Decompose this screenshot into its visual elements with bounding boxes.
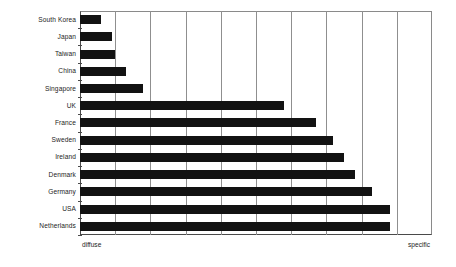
bar	[80, 222, 390, 231]
axis-tick	[78, 114, 82, 115]
bar	[80, 170, 355, 179]
axis-tick	[78, 201, 82, 202]
bar	[80, 15, 101, 24]
axis-tick	[78, 63, 82, 64]
axis-tick	[78, 166, 82, 167]
axis-tick	[78, 235, 82, 236]
bar	[80, 136, 333, 145]
category-label: South Korea	[2, 16, 76, 24]
category-label: Singapore	[2, 85, 76, 93]
category-label: Ireland	[2, 153, 76, 161]
x-axis-left-label: diffuse	[82, 241, 101, 249]
bar	[80, 67, 126, 76]
bar	[80, 50, 115, 59]
bar	[80, 101, 284, 110]
axis-tick	[78, 183, 82, 184]
x-axis-right-label: specific	[408, 241, 430, 249]
category-label: Netherlands	[2, 222, 76, 230]
diffuse-specific-bar-chart: South KoreaJapanTaiwanChinaSingaporeUKFr…	[0, 0, 456, 267]
bar	[80, 84, 143, 93]
bar	[80, 153, 344, 162]
bar	[80, 205, 390, 214]
axis-tick	[78, 97, 82, 98]
axis-tick	[78, 80, 82, 81]
category-label: UK	[2, 102, 76, 110]
bar	[80, 32, 112, 41]
category-label: Japan	[2, 33, 76, 41]
axis-tick	[78, 28, 82, 29]
category-label: Sweden	[2, 136, 76, 144]
category-label: Denmark	[2, 171, 76, 179]
category-label: France	[2, 119, 76, 127]
bar	[80, 187, 372, 196]
bar	[80, 118, 316, 127]
category-label: China	[2, 67, 76, 75]
axis-tick	[78, 149, 82, 150]
axis-tick	[78, 132, 82, 133]
category-label: USA	[2, 205, 76, 213]
category-label: Taiwan	[2, 50, 76, 58]
axis-tick	[78, 45, 82, 46]
axis-tick	[78, 218, 82, 219]
category-label: Germany	[2, 188, 76, 196]
